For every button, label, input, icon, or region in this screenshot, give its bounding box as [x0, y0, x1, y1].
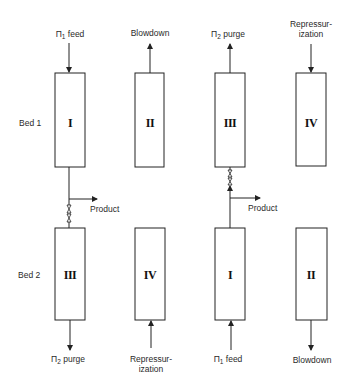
step-numeral: I — [68, 116, 72, 131]
feed-label-bed2: Π1 feed — [214, 354, 243, 367]
adsorption-cycle-diagram — [0, 0, 355, 392]
blowdown-label-bed2: Blowdown — [293, 355, 332, 365]
step-numeral: III — [64, 268, 77, 283]
row-label-bed2: Bed 2 — [18, 270, 40, 280]
step-numeral: IV — [305, 116, 317, 131]
purge-label-bed2: Π2 purge — [51, 354, 85, 367]
row-label-bed1: Bed 1 — [19, 118, 41, 128]
product-label-right: Product — [248, 203, 277, 213]
step-numeral: II — [146, 116, 154, 131]
feed-label: Π1 feed — [56, 29, 85, 42]
repressurization-label-bed2: Repressur- ization — [130, 354, 172, 374]
purge-label: Π2 purge — [211, 29, 245, 42]
product-label-left: Product — [90, 204, 119, 214]
valve-icon — [228, 170, 232, 185]
valve-icon — [67, 205, 71, 222]
step-numeral: II — [307, 268, 315, 283]
blowdown-label: Blowdown — [131, 28, 170, 38]
step-numeral: I — [228, 268, 232, 283]
step-numeral: III — [224, 116, 237, 131]
step-numeral: IV — [144, 268, 156, 283]
repressurization-label: Repressur- ization — [290, 19, 332, 39]
